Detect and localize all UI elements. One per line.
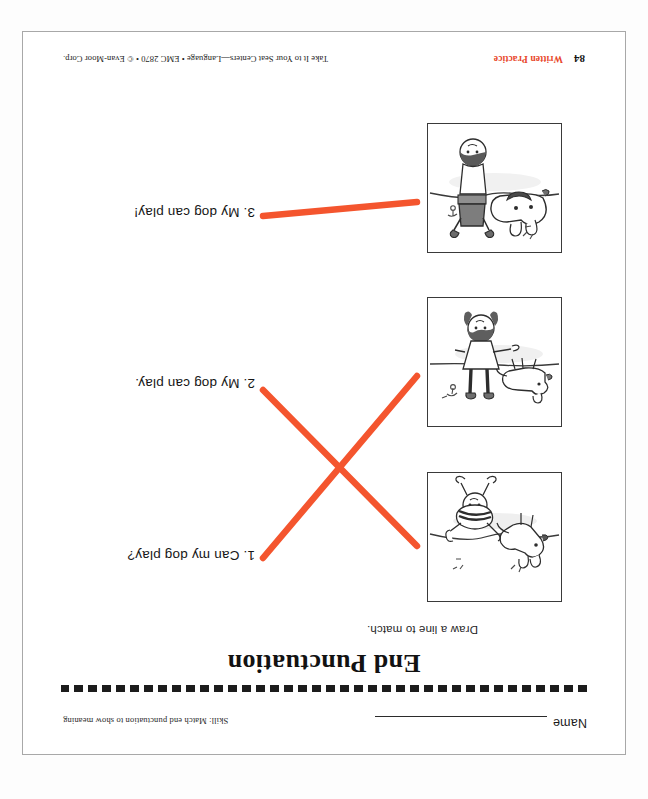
illustration-girl-and-running-dog (428, 298, 561, 426)
match-line-a (263, 390, 417, 546)
scan-background: Name Skill: Match end punctuation to sho… (0, 0, 648, 799)
sentence-3[interactable]: 3. My dog can play! (134, 205, 255, 220)
publisher-credit: Take It to Your Seat Centers—Language • … (63, 54, 328, 64)
page-number: 84 (574, 53, 585, 65)
worksheet-page: Name Skill: Match end punctuation to sho… (22, 31, 626, 755)
section-tag: Written Practice (494, 54, 563, 64)
sentence-1[interactable]: 1. Can my dog play? (127, 548, 255, 563)
picture-box-3[interactable] (427, 123, 562, 253)
worksheet-footer: 84 Written Practice Take It to Your Seat… (23, 49, 625, 65)
picture-box-2[interactable] (427, 297, 562, 427)
worksheet-inner: Name Skill: Match end punctuation to sho… (23, 32, 625, 754)
picture-box-1[interactable] (427, 472, 562, 602)
illustration-child-and-jumping-dog (428, 473, 561, 601)
matching-activity: 1. Can my dog play? 2. My dog can play. … (23, 32, 625, 754)
match-line-c (263, 202, 417, 216)
sentence-2[interactable]: 2. My dog can play. (135, 376, 255, 391)
match-line-b (263, 376, 417, 558)
illustration-child-with-barking-dog (428, 124, 561, 252)
